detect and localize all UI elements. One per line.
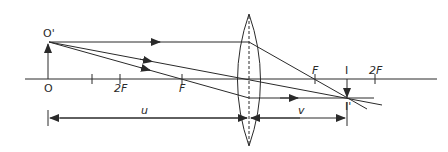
- ray-center: [49, 42, 382, 105]
- label-v: v: [298, 104, 305, 117]
- lens-ray-diagram: O' O 2F F F I 2F I' u v: [0, 0, 448, 152]
- ray-focal-arrow: [140, 68, 150, 71]
- label-f-right: F: [312, 64, 319, 77]
- label-image-top: I': [345, 100, 351, 113]
- label-2f-right: 2F: [369, 64, 383, 77]
- label-object-top: O': [43, 27, 55, 40]
- label-u: u: [141, 104, 148, 117]
- label-f-left: F: [179, 82, 186, 95]
- label-object-base: O: [44, 82, 53, 95]
- label-image-base: I: [345, 64, 348, 77]
- ray-center-arrow: [140, 59, 152, 61]
- label-2f-left: 2F: [114, 82, 128, 95]
